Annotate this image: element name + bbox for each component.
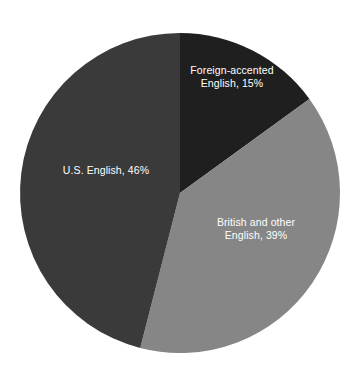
pie-chart-svg xyxy=(0,0,358,379)
pie-chart: Foreign-accented English, 15% U.S. Engli… xyxy=(0,0,358,379)
pie-slices xyxy=(20,33,340,353)
